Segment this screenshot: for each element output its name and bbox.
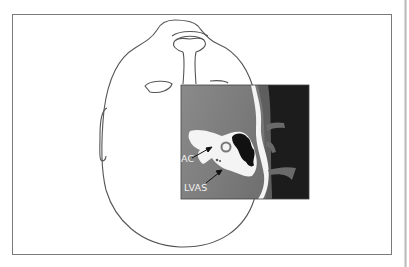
head-diagram (0, 0, 409, 267)
label-ac: AC (181, 153, 194, 164)
label-lvas: LVAS (184, 182, 207, 193)
